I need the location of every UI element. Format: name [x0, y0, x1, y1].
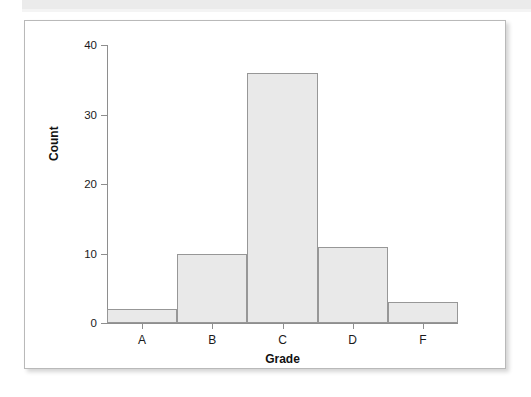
x-tick-mark [142, 324, 143, 329]
y-tick-label: 10 [39, 249, 97, 261]
bar-D [318, 247, 388, 323]
y-tick-mark [101, 254, 107, 255]
y-tick-mark [101, 45, 107, 46]
y-tick-mark [101, 115, 107, 116]
y-tick-label: 0 [39, 318, 97, 330]
bar-B [177, 254, 247, 324]
y-tick-label-wrap: 10 [35, 254, 97, 255]
bar-A [107, 309, 177, 323]
y-axis-title: Count [47, 126, 61, 161]
y-tick-label-wrap: 20 [35, 184, 97, 185]
y-tick-label: 20 [39, 179, 97, 191]
figure-card: 010203040 ABCDF Count Grade [24, 20, 506, 369]
bar-C [247, 73, 317, 323]
page-top-band-shade [22, 9, 531, 12]
y-tick-label-wrap: 0 [35, 323, 97, 324]
y-tick-mark [101, 323, 107, 324]
x-tick-mark [353, 324, 354, 329]
x-tick-label-A: A [107, 333, 177, 347]
y-tick-label-wrap: 40 [35, 45, 97, 46]
y-axis-line [107, 45, 108, 324]
y-tick-label-wrap: 30 [35, 115, 97, 116]
x-tick-label-D: D [318, 333, 388, 347]
x-axis-title: Grade [107, 352, 458, 366]
x-tick-label-B: B [177, 333, 247, 347]
page-top-band [22, 0, 531, 9]
x-tick-mark [212, 324, 213, 329]
x-tick-label-F: F [388, 333, 458, 347]
x-tick-label-C: C [248, 333, 318, 347]
y-tick-label: 40 [39, 40, 97, 52]
chart-plot-area: 010203040 ABCDF Count Grade [25, 21, 505, 368]
y-tick-mark [101, 184, 107, 185]
x-tick-mark [423, 324, 424, 329]
x-tick-mark [283, 324, 284, 329]
bar-F [388, 302, 458, 323]
y-tick-label: 30 [39, 110, 97, 122]
